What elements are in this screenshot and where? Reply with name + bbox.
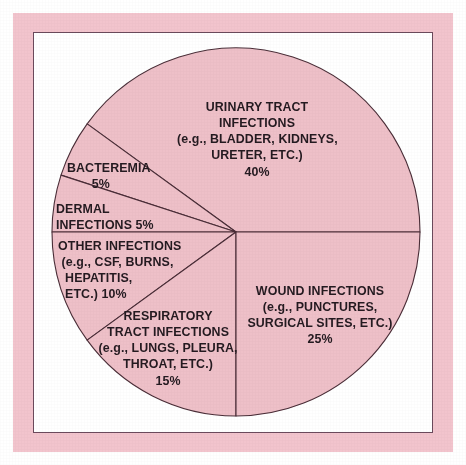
slice-label-bacteremia: BACTEREMIA 5%	[67, 160, 177, 192]
slice-label-other-infections: OTHER INFECTIONS (e.g., CSF, BURNS, HEPA…	[58, 238, 198, 303]
slice-label-respiratory-tract-infections: RESPIRATORY TRACT INFECTIONS (e.g., LUNG…	[92, 308, 244, 389]
figure-page: URINARY TRACT INFECTIONS (e.g., BLADDER,…	[0, 0, 466, 465]
slice-label-dermal-infections: DERMAL INFECTIONS 5%	[56, 201, 196, 233]
slice-label-wound-infections: WOUND INFECTIONS (e.g., PUNCTURES, SURGI…	[236, 283, 404, 348]
slice-label-urinary-tract-infections: URINARY TRACT INFECTIONS (e.g., BLADDER,…	[177, 99, 337, 180]
